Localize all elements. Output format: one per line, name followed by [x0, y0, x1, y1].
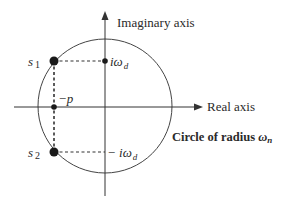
s-plane-diagram: Imaginary axis Real axis s1 s2 −p iωd − …	[0, 0, 289, 206]
imaginary-axis-arrow-icon	[102, 11, 109, 20]
real-axis-label: Real axis	[207, 99, 255, 114]
s2-point	[50, 148, 59, 157]
circle-radius-label: Circle of radius ωn	[172, 130, 272, 145]
s2-label: s2	[28, 145, 40, 161]
i-omega-d-point	[102, 58, 108, 64]
neg-p-point	[51, 104, 57, 110]
imaginary-axis-label: Imaginary axis	[117, 15, 195, 30]
neg-i-omega-d-label: − iωd	[107, 145, 138, 162]
s1-label: s1	[28, 54, 40, 70]
s1-point	[50, 57, 59, 66]
neg-p-label: −p	[58, 91, 74, 106]
real-axis-arrow-icon	[194, 104, 203, 111]
i-omega-d-label: iωd	[110, 54, 129, 71]
